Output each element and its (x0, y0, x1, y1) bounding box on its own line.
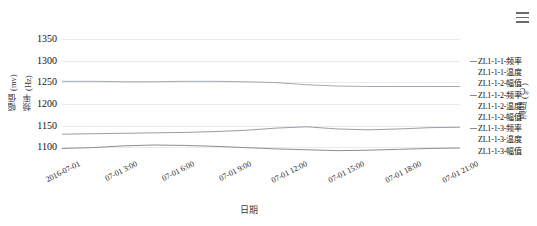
x-axis-tick-label: 07-01 18:00 (384, 160, 422, 185)
legend-item[interactable]: ZL1-1-3-幅值 (470, 146, 522, 157)
chart-legend: ZL1-1-1-频率ZL1-1-1-温度ZL1-1-2-幅值ZL1-1-2-频率… (470, 56, 522, 157)
legend-item-label: ZL1-1-1-温度 (478, 67, 522, 78)
legend-item[interactable]: ZL1-1-2-幅值 (470, 78, 522, 89)
legend-item[interactable]: ZL1-1-2-温度 (470, 101, 522, 112)
y-axis-tick-label: 1100 (37, 142, 57, 152)
legend-spacer (470, 151, 477, 152)
x-axis-tick-label: 2016-07-01 (45, 160, 82, 184)
legend-item-label: ZL1-1-2-幅值 (478, 78, 522, 89)
legend-item[interactable]: ZL1-1-2-频率 (470, 90, 522, 101)
x-axis-tick-label: 07-01 15:00 (328, 160, 366, 185)
legend-item[interactable]: ZL1-1-3-温度 (470, 134, 522, 145)
x-axis-tick-label: 07-01 21:00 (441, 160, 479, 185)
x-axis-tick-label: 07-01 6:00 (161, 160, 196, 183)
legend-item-label: ZL1-1-3-幅值 (478, 146, 522, 157)
legend-item-label: ZL1-1-2-频率 (478, 90, 522, 101)
legend-item-label: ZL1-1-3-温度 (478, 134, 522, 145)
y-axis-tick-label: 1300 (37, 56, 57, 66)
hamburger-bar-1 (516, 12, 529, 14)
legend-line-icon (470, 128, 477, 129)
legend-spacer (470, 106, 477, 107)
series-lines (62, 28, 460, 158)
legend-line-icon (470, 61, 477, 62)
legend-item-label: ZL1-1-1-频率 (478, 56, 522, 67)
hamburger-menu-icon[interactable] (516, 12, 529, 23)
series-line (62, 127, 460, 134)
legend-item[interactable]: ZL1-1-3-频率 (470, 123, 522, 134)
y-axis-title-frequency: 频率 (Hz) (22, 62, 34, 124)
y-axis-title-amplitude: 幅值 (mv) (7, 62, 19, 124)
legend-item-label: ZL1-1-2-幅值 (478, 112, 522, 123)
legend-item-label: ZL1-1-3-频率 (478, 123, 522, 134)
legend-spacer (470, 117, 477, 118)
hamburger-bar-3 (516, 21, 529, 23)
legend-spacer (470, 72, 477, 73)
legend-line-icon (470, 95, 477, 96)
x-axis-title: 日期 (0, 203, 537, 216)
y-axis-tick-label: 1250 (37, 77, 57, 87)
plot-area: 135013001250120011501100 (62, 28, 460, 158)
legend-item-label: ZL1-1-2-温度 (478, 101, 522, 112)
series-line (62, 145, 460, 151)
legend-spacer (470, 83, 477, 84)
y-axis-tick-label: 1350 (37, 34, 57, 44)
legend-item[interactable]: ZL1-1-2-幅值 (470, 112, 522, 123)
legend-item[interactable]: ZL1-1-1-温度 (470, 67, 522, 78)
x-axis-tick-label: 07-01 3:00 (104, 160, 139, 183)
y-axis-tick-label: 1150 (37, 121, 57, 131)
x-axis-tick-label: 07-01 9:00 (217, 160, 252, 183)
x-axis-tick-label: 07-01 12:00 (271, 160, 309, 185)
chart-panel: 幅值 (mv) 频率 (Hz) 温度 (℃) 日期 13501300125012… (0, 0, 537, 226)
y-axis-tick-label: 1200 (37, 99, 57, 109)
legend-spacer (470, 139, 477, 140)
hamburger-bar-2 (516, 17, 529, 19)
legend-item[interactable]: ZL1-1-1-频率 (470, 56, 522, 67)
x-axis-title-label: 日期 (240, 203, 258, 216)
series-line (62, 81, 460, 86)
